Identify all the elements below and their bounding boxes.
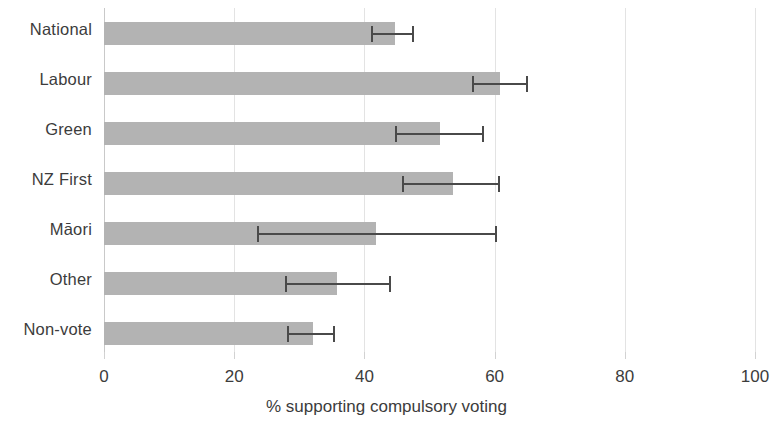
bar-national — [104, 22, 395, 45]
x-tick-label-60: 60 — [485, 366, 504, 387]
bar-row: Māori — [0, 208, 773, 258]
error-bar-cap-high — [526, 76, 528, 92]
error-bar-cap-high — [412, 26, 414, 42]
x-tick-label-100: 100 — [741, 366, 769, 387]
bar-non-vote — [104, 322, 313, 345]
error-bar-cap-low — [472, 76, 474, 92]
error-bar-line — [396, 133, 483, 135]
category-label-m-ori: Māori — [50, 219, 92, 239]
error-bar-line — [288, 333, 334, 335]
error-bar-line — [258, 233, 496, 235]
error-bar-cap-low — [395, 126, 397, 142]
error-bar-cap-high — [495, 226, 497, 242]
error-bar-cap-high — [389, 276, 391, 292]
x-axis-title: % supporting compulsory voting — [0, 396, 773, 418]
error-bar-cap-high — [498, 176, 500, 192]
category-label-non-vote: Non-vote — [23, 319, 92, 339]
bar-chart: NationalLabourGreenNZ FirstMāoriOtherNon… — [0, 0, 773, 432]
error-bar-line — [403, 183, 499, 185]
error-bar-line — [372, 33, 413, 35]
error-bar-cap-low — [371, 26, 373, 42]
error-bar-cap-low — [257, 226, 259, 242]
bar-nz-first — [104, 172, 453, 195]
bar-green — [104, 122, 440, 145]
bar-row: Non-vote — [0, 308, 773, 358]
error-bar-cap-high — [482, 126, 484, 142]
error-bar-line — [286, 283, 390, 285]
category-label-other: Other — [50, 269, 92, 289]
bar-row: NZ First — [0, 158, 773, 208]
category-label-nz-first: NZ First — [32, 169, 92, 189]
bar-row: Green — [0, 108, 773, 158]
x-tick-label-0: 0 — [99, 366, 108, 387]
error-bar-cap-high — [333, 326, 335, 342]
bar-row: Labour — [0, 58, 773, 108]
error-bar-line — [473, 83, 527, 85]
error-bar-cap-low — [402, 176, 404, 192]
category-label-national: National — [30, 19, 92, 39]
x-tick-label-40: 40 — [355, 366, 374, 387]
bar-labour — [104, 72, 500, 95]
error-bar-cap-low — [287, 326, 289, 342]
bar-row: Other — [0, 258, 773, 308]
error-bar-cap-low — [285, 276, 287, 292]
x-tick-label-80: 80 — [615, 366, 634, 387]
x-tick-label-20: 20 — [225, 366, 244, 387]
plot-area: NationalLabourGreenNZ FirstMāoriOtherNon… — [0, 0, 773, 352]
category-label-green: Green — [45, 119, 92, 139]
bar-row: National — [0, 8, 773, 58]
category-label-labour: Labour — [39, 69, 92, 89]
